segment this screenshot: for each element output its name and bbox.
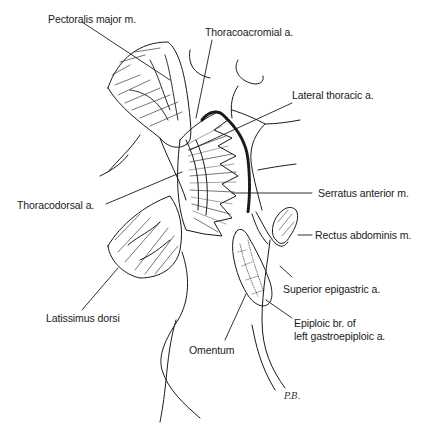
leader-pectoralis	[82, 22, 170, 80]
leader-epiploic	[266, 300, 292, 318]
label-pectoralis-major: Pectoralis major m.	[48, 13, 136, 25]
leader-thoracoacromial	[196, 40, 212, 118]
artist-signature: P.B.	[284, 391, 301, 401]
lateral-thoracic-artery	[202, 112, 250, 212]
label-thoracoacromial-artery: Thoracoacromial a.	[205, 26, 293, 38]
label-latissimus-dorsi: Latissimus dorsi	[46, 312, 120, 324]
leader-lateral-thoracic	[190, 103, 292, 150]
label-thoracodorsal-artery: Thoracodorsal a.	[17, 199, 94, 211]
anatomy-drawing	[0, 0, 422, 430]
leader-superior-epigastric	[280, 266, 292, 277]
label-superior-epigastric-artery: Superior epigastric a.	[283, 283, 380, 295]
label-lateral-thoracic-artery: Lateral thoracic a.	[292, 89, 374, 101]
torso-outline	[160, 50, 300, 422]
serratus-anterior-muscle	[178, 112, 238, 236]
label-epiploic-branch-line2: left gastroepiploic a.	[294, 330, 385, 342]
anatomy-figure: Pectoralis major m. Thoracoacromial a. L…	[0, 0, 422, 430]
label-rectus-abdominis: Rectus abdominis m.	[315, 229, 411, 241]
leader-omentum	[225, 294, 246, 340]
label-serratus-anterior: Serratus anterior m.	[318, 187, 409, 199]
leader-thoracodorsal	[106, 172, 182, 204]
leader-latissimus	[82, 268, 118, 310]
label-omentum: Omentum	[189, 344, 234, 356]
rectus-abdominis-muscle	[252, 207, 298, 246]
latissimus-dorsi-muscle	[108, 196, 182, 278]
label-epiploic-branch-line1: Epiploic br. of	[294, 317, 356, 329]
